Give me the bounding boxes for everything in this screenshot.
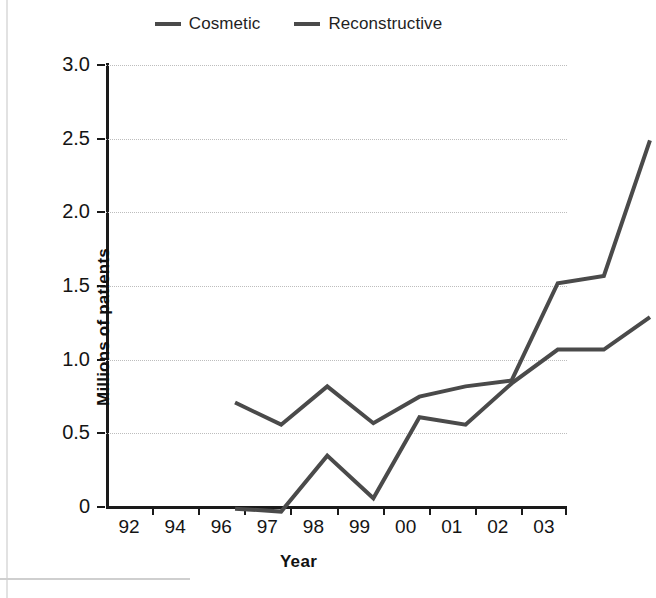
y-axis-tick-label: 1.0 (44, 349, 90, 369)
x-axis-tick-label: 97 (244, 517, 290, 536)
series-line-cosmetic (235, 140, 650, 424)
y-axis-tick (97, 138, 105, 140)
x-axis-tick-label: 98 (290, 517, 336, 536)
x-axis-tick-label: 96 (198, 517, 244, 536)
line-dash-marker-icon (294, 22, 320, 26)
x-axis-tick-label: 99 (337, 517, 383, 536)
y-axis-tick (97, 506, 105, 508)
legend-item-reconstructive[interactable]: Reconstructive (294, 14, 442, 34)
legend-label: Cosmetic (189, 14, 261, 34)
y-axis-tick-label: 2.0 (44, 201, 90, 221)
chart-legend: Cosmetic Reconstructive (0, 14, 597, 34)
y-axis-tick-label: 2.5 (44, 128, 90, 148)
line-dash-marker-icon (155, 22, 181, 26)
y-axis-tick-label: 0.5 (44, 422, 90, 442)
legend-item-cosmetic[interactable]: Cosmetic (155, 14, 261, 34)
x-axis-title: Year (0, 552, 597, 572)
page-bottom-rule (0, 578, 190, 580)
x-axis-tick-label: 92 (106, 517, 152, 536)
gridline (106, 65, 567, 66)
x-axis-tick-label: 03 (521, 517, 567, 536)
plot-area: Millions of patients (106, 65, 567, 507)
y-axis-title: Millions of patients (94, 177, 114, 477)
x-axis-tick-label: 00 (383, 517, 429, 536)
y-axis-tick-label: 0 (44, 496, 90, 516)
x-axis-tick (198, 507, 200, 515)
x-axis-tick-label: 01 (429, 517, 475, 536)
series-lines-group (212, 130, 656, 572)
y-axis-tick (97, 64, 105, 66)
x-axis-tick (152, 507, 154, 515)
x-axis-tick-label: 94 (152, 517, 198, 536)
legend-label: Reconstructive (328, 14, 442, 34)
page-edge-rule (6, 0, 8, 598)
y-axis-tick-label: 1.5 (44, 275, 90, 295)
y-axis-tick-label: 3.0 (44, 54, 90, 74)
series-line-reconstructive (235, 317, 650, 511)
x-axis-tick-label: 02 (475, 517, 521, 536)
